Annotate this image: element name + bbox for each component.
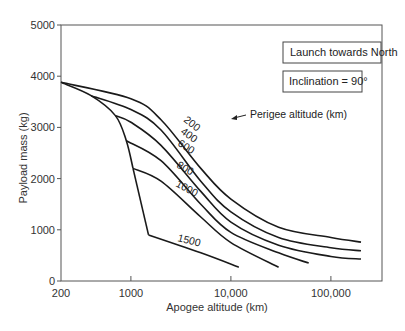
perigee-title: Perigee altitude (km) [250, 108, 347, 120]
perigee-annotation: Perigee altitude (km) [231, 108, 347, 120]
y-tick-label: 2000 [31, 173, 55, 185]
envelope-segment [133, 168, 148, 235]
x-tick-label: 200 [52, 287, 70, 299]
y-tick-label: 4000 [31, 70, 55, 82]
x-tick-label: 10,000 [214, 287, 248, 299]
curve-perigee-600 [115, 116, 361, 259]
x-axis-title: Apogee altitude (km) [166, 301, 268, 313]
curve-perigee-1000 [133, 168, 279, 267]
y-tick-label: 5000 [31, 19, 55, 31]
x-tick-label: 100,000 [311, 287, 351, 299]
curve-labels: 20040060080010001500 [174, 113, 203, 249]
curve-perigee-800 [126, 141, 308, 263]
inclination-label: Inclination = 90° [289, 75, 368, 87]
y-tick-label: 3000 [31, 121, 55, 133]
x-tick-label: 1000 [119, 287, 143, 299]
annotation-launch-box: Launch towards North [283, 42, 398, 63]
payload-chart: 010002000300040005000200100010,000100,00… [0, 0, 405, 331]
launch-direction-label: Launch towards North [290, 46, 398, 58]
y-tick-label: 1000 [31, 224, 55, 236]
annotation-inclination-box: Inclination = 90° [283, 71, 368, 92]
arrowhead-icon [231, 115, 237, 120]
curve-label-800: 800 [175, 158, 196, 177]
y-axis-title: Payload mass (kg) [17, 112, 29, 203]
y-tick-label: 0 [49, 275, 55, 287]
